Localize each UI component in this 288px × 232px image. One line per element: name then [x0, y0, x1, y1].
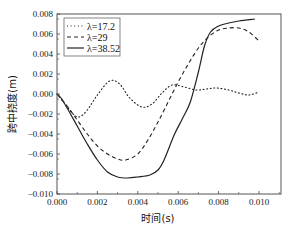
- y-tick-label: −0.006: [28, 149, 54, 159]
- y-tick-label: −0.002: [28, 109, 53, 119]
- x-axis-label: 时间(s): [141, 212, 174, 224]
- y-tick-label: 0.008: [33, 9, 54, 19]
- x-tick-label: 0.008: [208, 197, 229, 207]
- x-axis-ticks: 0.0000.0020.0040.0060.0080.010: [47, 191, 279, 207]
- y-axis-label: 跨中挠度(m): [6, 75, 18, 133]
- x-tick-label: 0.002: [87, 197, 107, 207]
- x-tick-label: 0.010: [249, 197, 270, 207]
- series-line-dotted: [57, 80, 259, 117]
- legend-label: λ=17.2: [87, 21, 115, 32]
- y-tick-label: 0.006: [33, 29, 54, 39]
- y-tick-label: 0.002: [33, 69, 53, 79]
- y-tick-label: 0.004: [33, 49, 54, 59]
- deflection-time-chart: 0.0080.0060.0040.0020.000−0.002−0.004−0.…: [0, 0, 288, 232]
- legend: λ=17.2λ=29λ=38.52: [64, 18, 120, 56]
- legend-label: λ=29: [87, 32, 108, 43]
- y-tick-label: −0.004: [28, 129, 54, 139]
- x-tick-label: 0.004: [128, 197, 149, 207]
- x-tick-label: 0.000: [47, 197, 68, 207]
- y-tick-label: −0.008: [28, 169, 54, 179]
- y-tick-label: 0.000: [33, 89, 54, 99]
- y-axis-ticks: 0.0080.0060.0040.0020.000−0.002−0.004−0.…: [28, 9, 60, 199]
- legend-label: λ=38.52: [87, 43, 120, 54]
- x-tick-label: 0.006: [168, 197, 189, 207]
